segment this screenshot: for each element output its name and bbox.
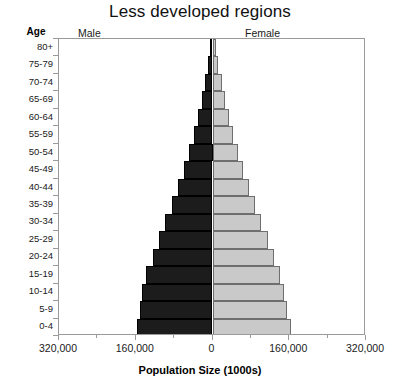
bar-female-35-39 [213,196,256,213]
x-tick-minor [96,335,97,338]
y-tick [53,248,58,249]
bar-female-20-24 [213,249,274,266]
y-tick [53,108,58,109]
x-tick-major [288,335,289,340]
y-tick [53,55,58,56]
bar-male-30-34 [165,214,212,231]
y-tick [53,38,58,39]
x-tick-major [365,335,366,340]
bar-male-0-4 [137,319,213,335]
bar-row [59,319,364,335]
age-label-30-34: 30-34 [29,216,53,226]
x-tick-label: 160,000 [100,342,170,354]
bar-male-45-49 [184,161,213,178]
age-label-70-74: 70-74 [29,77,53,87]
bar-female-10-14 [213,284,285,301]
bar-female-60-64 [213,109,229,126]
page-title: Less developed regions [0,2,400,22]
x-tick-label: 320,000 [330,342,400,354]
bar-rows [59,39,364,334]
bar-female-40-44 [213,179,249,196]
bar-male-70-74 [205,74,212,91]
age-label-60-64: 60-64 [29,112,53,122]
x-tick-minor [173,335,174,338]
bar-row [59,91,364,108]
age-label-0-4: 0-4 [39,321,53,331]
bar-male-35-39 [172,196,213,213]
bar-row [59,74,364,91]
x-tick-label: 160,000 [253,342,323,354]
age-label-10-14: 10-14 [29,286,53,296]
age-axis-labels: 80+75-7970-7465-6960-6455-5950-5445-4940… [0,38,56,335]
bar-row [59,161,364,178]
x-tick-major [58,335,59,340]
bar-male-55-59 [194,126,213,143]
bar-male-25-29 [159,231,213,248]
bar-female-80+ [213,39,217,56]
bar-female-75-79 [213,56,219,73]
y-tick [53,300,58,301]
y-tick [53,265,58,266]
x-tick-minor [250,335,251,338]
age-label-20-24: 20-24 [29,251,53,261]
bar-row [59,196,364,213]
age-label-55-59: 55-59 [29,129,53,139]
y-tick [53,195,58,196]
bar-row [59,301,364,318]
age-label-75-79: 75-79 [29,59,53,69]
bar-female-5-9 [213,301,287,318]
age-label-40-44: 40-44 [29,182,53,192]
age-label-35-39: 35-39 [29,199,53,209]
y-tick [53,178,58,179]
y-tick [53,73,58,74]
bar-female-15-19 [213,266,280,283]
x-tick-label: 320,000 [23,342,93,354]
y-tick [53,90,58,91]
bar-row [59,266,364,283]
x-tick-major [135,335,136,340]
bar-female-65-69 [213,91,225,108]
x-tick-label: 0 [177,342,247,354]
plot-area [58,38,365,335]
bar-row [59,231,364,248]
bar-male-65-69 [202,91,213,108]
y-tick [53,283,58,284]
y-tick [53,213,58,214]
age-label-25-29: 25-29 [29,234,53,244]
x-tick-major [212,335,213,340]
bar-row [59,126,364,143]
bar-row [59,179,364,196]
bar-row [59,284,364,301]
bar-row [59,249,364,266]
age-label-45-49: 45-49 [29,164,53,174]
y-tick [53,318,58,319]
age-label-15-19: 15-19 [29,269,53,279]
age-axis-header: Age [14,26,58,37]
age-label-65-69: 65-69 [29,94,53,104]
x-axis-title: Population Size (1000s) [0,364,400,376]
bar-row [59,144,364,161]
population-pyramid-chart: Less developed regions Age Male Female 8… [0,0,400,391]
y-tick [53,143,58,144]
x-tick-minor [327,335,328,338]
y-tick [53,125,58,126]
bar-male-15-19 [146,266,212,283]
bar-female-30-34 [213,214,262,231]
bar-female-0-4 [213,319,291,335]
age-label-50-54: 50-54 [29,147,53,157]
age-label-80+: 80+ [37,42,53,52]
bar-female-55-59 [213,126,234,143]
bar-row [59,56,364,73]
bar-female-70-74 [213,74,222,91]
bar-male-50-54 [189,144,213,161]
bar-row [59,39,364,56]
bar-male-5-9 [140,301,213,318]
bar-female-25-29 [213,231,268,248]
bar-male-60-64 [198,109,212,126]
age-label-5-9: 5-9 [39,304,53,314]
bar-male-10-14 [142,284,213,301]
bar-row [59,109,364,126]
bar-female-50-54 [213,144,238,161]
y-tick [53,160,58,161]
bar-female-45-49 [213,161,244,178]
